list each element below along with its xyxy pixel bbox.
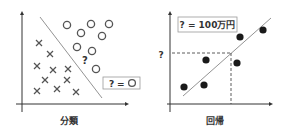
data-point-icon (259, 26, 266, 33)
class-crosses (34, 40, 79, 95)
cross-marker-icon (65, 66, 71, 72)
cross-marker-icon (42, 77, 48, 83)
circle-marker-icon (92, 65, 99, 72)
circle-marker-icon (63, 21, 70, 28)
data-point-icon (233, 59, 240, 66)
class-circles (63, 20, 112, 72)
classification-panel: ? ? = 分類 (16, 13, 140, 126)
diagram-canvas: ? ? = 分類 ? = 100万円 ? 回帰 (0, 0, 285, 139)
circle-marker-icon (98, 32, 105, 39)
classification-caption: 分類 (60, 115, 79, 126)
data-point-icon (180, 83, 187, 90)
cross-marker-icon (34, 63, 40, 69)
circle-marker-icon (73, 43, 80, 50)
cross-marker-icon (47, 51, 53, 57)
circle-marker-icon (88, 47, 95, 54)
cross-marker-icon (54, 86, 60, 92)
legend-question: ? (109, 79, 114, 89)
cross-marker-icon (36, 40, 42, 46)
circle-marker-icon (77, 29, 84, 36)
value-label: ? = 100万円 (180, 20, 236, 30)
cross-marker-icon (73, 89, 79, 95)
unknown-point-mark: ? (82, 55, 88, 66)
regression-caption: 回帰 (206, 115, 224, 126)
cross-marker-icon (50, 67, 56, 73)
circle-marker-icon (105, 20, 112, 27)
legend-equals: = (117, 79, 125, 89)
cross-marker-icon (34, 88, 40, 94)
regression-panel: ? = 100万円 ? 回帰 (158, 13, 271, 126)
y-unknown-mark: ? (158, 50, 163, 60)
data-point-icon (200, 81, 207, 88)
regression-points (180, 26, 266, 90)
circle-marker-icon (87, 20, 94, 27)
decision-boundary (40, 17, 102, 98)
cross-marker-icon (64, 77, 70, 83)
data-point-icon (236, 33, 243, 40)
data-point-icon (202, 56, 209, 63)
